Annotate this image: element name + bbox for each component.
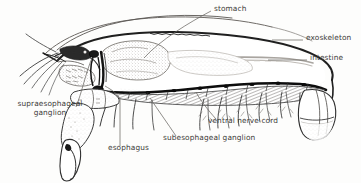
supraesophageal-ganglion-shape (89, 51, 98, 58)
tail-fan (298, 90, 335, 142)
label-stomach: stomach (214, 5, 246, 14)
label-ventral-nerve-cord: ventral nerve cord (208, 117, 278, 126)
anatomy-figure: stomach exoskeleton intestine supraesoph… (0, 0, 361, 183)
label-exoskeleton: exoskeleton (306, 34, 351, 43)
label-esophagus: esophagus (108, 144, 149, 153)
label-supraesophageal-ganglion: supraesophageal ganglion (2, 100, 98, 117)
label-subesophageal-ganglion: subesophageal ganglion (163, 134, 255, 143)
label-intestine: intestine (310, 54, 343, 63)
crayfish-anatomy-drawing (0, 0, 361, 183)
